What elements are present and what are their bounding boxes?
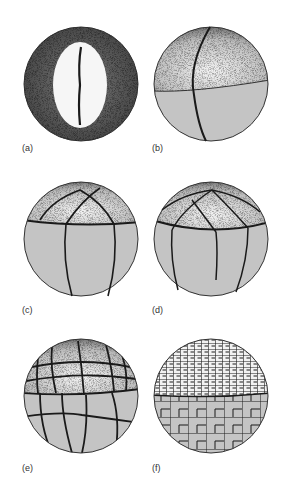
panel-b-two-cell <box>152 25 270 143</box>
panel-label-e: (e) <box>22 463 33 473</box>
egg-one-cell-illustration <box>22 25 140 143</box>
panel-f-blastula <box>152 337 270 455</box>
panel-d-sixteen-cell <box>152 180 270 298</box>
panel-label-b: (b) <box>152 143 163 153</box>
egg-eight-cell-illustration <box>22 180 140 298</box>
egg-sixteen-cell-illustration <box>152 180 270 298</box>
egg-blastula-illustration <box>152 337 270 455</box>
panel-label-c: (c) <box>22 305 33 315</box>
panel-label-d: (d) <box>152 305 163 315</box>
egg-morula-illustration <box>22 337 140 455</box>
panel-label-f: (f) <box>152 463 161 473</box>
egg-two-cell-illustration <box>152 25 270 143</box>
panel-label-a: (a) <box>22 143 33 153</box>
panel-c-eight-cell <box>22 180 140 298</box>
panel-a-one-cell <box>22 25 140 143</box>
panel-e-morula <box>22 337 140 455</box>
